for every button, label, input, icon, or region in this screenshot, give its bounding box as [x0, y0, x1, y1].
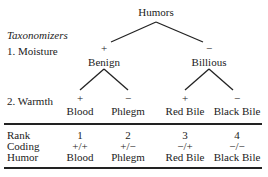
node-billious: Billious: [192, 57, 227, 68]
phlegm-sign: −: [125, 93, 131, 104]
benign-sign: +: [101, 43, 107, 54]
level-2-label: 2. Warmth: [7, 96, 53, 107]
humor-cell: Blood: [67, 152, 94, 163]
humor-cell: Red Bile: [166, 152, 205, 163]
redbile-sign: +: [182, 93, 188, 104]
node-benign: Benign: [88, 57, 120, 68]
edge-benign-blood: [80, 69, 104, 90]
table-bottom-rule: [4, 167, 262, 169]
edge-billious-redbile: [185, 69, 209, 90]
row-label-humor: Humor: [7, 152, 38, 163]
table-top-rule: [4, 123, 262, 125]
root-node-humors: Humors: [138, 7, 173, 18]
taxonomizers-heading: Taxonomizers: [7, 30, 68, 41]
edge-humors-billious: [156, 22, 203, 42]
blood-sign: +: [77, 93, 83, 104]
node-blood: Blood: [67, 106, 94, 117]
edge-humors-benign: [111, 22, 156, 42]
node-phlegm: Phlegm: [111, 106, 145, 117]
node-black-bile: Black Bile: [214, 106, 261, 117]
billious-sign: −: [206, 43, 212, 54]
edge-benign-phlegm: [104, 69, 128, 90]
blackbile-sign: −: [234, 93, 240, 104]
level-1-label: 1. Moisture: [7, 46, 58, 57]
node-red-bile: Red Bile: [166, 106, 205, 117]
edge-billious-blackbile: [209, 69, 233, 90]
humor-cell: Black Bile: [214, 152, 261, 163]
humor-cell: Phlegm: [111, 152, 145, 163]
